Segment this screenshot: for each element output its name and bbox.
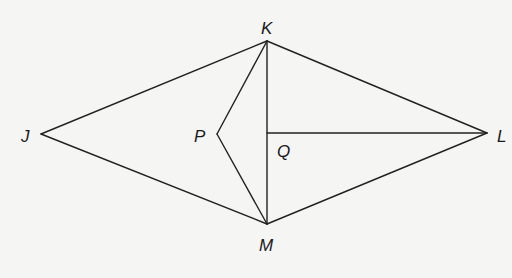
label-m: M xyxy=(259,236,274,255)
segment-pm xyxy=(217,134,267,224)
geometry-diagram: K J P Q L M xyxy=(0,0,512,278)
label-j: J xyxy=(20,127,30,146)
segment-kp xyxy=(217,41,267,134)
label-k: K xyxy=(261,19,273,38)
label-l: L xyxy=(497,127,506,146)
label-q: Q xyxy=(277,142,290,161)
segment-mj xyxy=(41,134,267,224)
label-p: P xyxy=(194,127,206,146)
segment-lm xyxy=(267,133,487,224)
segment-kl xyxy=(267,41,487,133)
segment-jk xyxy=(41,41,267,134)
diagram-svg: K J P Q L M xyxy=(0,0,512,278)
